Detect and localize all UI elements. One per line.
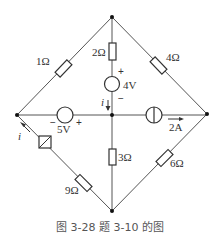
svg-text:2A: 2A — [169, 121, 183, 133]
svg-text:3Ω: 3Ω — [118, 151, 132, 163]
svg-text:−: − — [50, 117, 56, 128]
svg-text:6Ω: 6Ω — [170, 157, 184, 169]
resistor-3ohm: 3Ω — [109, 149, 132, 165]
svg-text:4V: 4V — [123, 79, 137, 91]
voltage-source-5v: − + 5V — [50, 107, 82, 135]
svg-text:1Ω: 1Ω — [36, 55, 50, 67]
resistor-2ohm: 2Ω — [92, 43, 116, 60]
svg-text:4Ω: 4Ω — [166, 51, 180, 63]
controlled-source — [39, 136, 51, 148]
svg-text:2Ω: 2Ω — [92, 46, 106, 58]
svg-text:−: − — [118, 93, 124, 104]
current-arrow-left: i — [18, 122, 30, 142]
resistor-6ohm: 6Ω — [156, 150, 184, 169]
svg-text:i: i — [18, 130, 21, 142]
resistor-1ohm: 1Ω — [36, 55, 72, 77]
voltage-source-4v: + 4V − — [105, 66, 137, 104]
svg-text:+: + — [118, 66, 124, 77]
svg-text:+: + — [76, 117, 82, 128]
current-arrow-center: i — [101, 96, 111, 111]
circuit-diagram: 1Ω 4Ω 2Ω + 4V − i − + 5V 2A — [0, 0, 222, 236]
svg-text:5V: 5V — [57, 123, 71, 135]
current-source-2a: 2A — [146, 107, 184, 133]
svg-text:9Ω: 9Ω — [65, 184, 79, 196]
svg-text:i: i — [101, 96, 104, 108]
resistor-9ohm: 9Ω — [65, 175, 92, 196]
figure-caption: 图 3-28 题 3-10 的图 — [56, 220, 164, 234]
resistor-4ohm: 4Ω — [150, 51, 180, 74]
